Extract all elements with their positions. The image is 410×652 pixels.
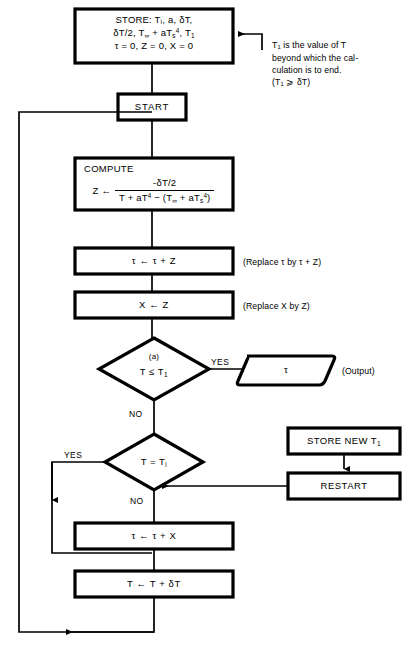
annotation-replace-tau: (Replace τ by τ + Z) xyxy=(243,256,321,268)
edge-label-no-a: NO xyxy=(129,409,143,419)
store-note-line-1: T1 is the value of T xyxy=(272,40,346,50)
store-note-line-2: beyond which the cal- xyxy=(272,53,358,63)
node-start-shape xyxy=(118,94,186,120)
flowchart-canvas xyxy=(0,0,410,652)
edge-store-note-leader xyxy=(238,34,262,50)
node-decision-a-shape xyxy=(99,338,209,400)
edge-label-yes-b: YES xyxy=(64,450,82,460)
edge-label-no-b: NO xyxy=(130,496,144,506)
node-output-tau-shape xyxy=(237,356,334,385)
node-tau-plus-x-shape xyxy=(75,523,233,549)
store-note-line-4: (T1 ⩾ δT) xyxy=(272,77,310,87)
node-restart-shape xyxy=(288,473,400,499)
edge-label-yes-a: YES xyxy=(211,357,229,367)
node-x-update-shape xyxy=(75,292,233,318)
node-t-plus-dt-shape xyxy=(75,571,233,597)
node-compute-label: COMPUTE xyxy=(84,163,134,174)
node-store-shape xyxy=(75,9,233,63)
flowchart-page: STORE: Tᵢ, a, δT, δT/2, T∞ + aTs4, T1 τ … xyxy=(0,0,410,652)
node-tau-update-shape xyxy=(75,248,233,274)
node-decision-b-shape xyxy=(105,434,203,490)
node-store-new-shape xyxy=(288,428,400,454)
annotation-store-note: T1 is the value of T beyond which the ca… xyxy=(272,39,408,88)
annotation-replace-x: (Replace X by Z) xyxy=(243,300,310,312)
store-note-line-3: culation is to end. xyxy=(272,65,342,75)
annotation-output-note: (Output) xyxy=(342,365,375,377)
